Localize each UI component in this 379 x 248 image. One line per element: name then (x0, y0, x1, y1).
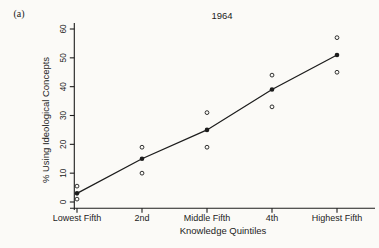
y-tick-label: 30 (59, 111, 68, 121)
y-tick-label: 20 (59, 139, 68, 149)
x-tick-label: Highest Fifth (312, 213, 363, 223)
figure-panel: (a) 1964 Knowledge Quintiles % Using Ide… (0, 0, 379, 248)
data-point-open (270, 105, 274, 109)
trend-line (77, 55, 337, 193)
data-point-open (140, 171, 144, 175)
panel-label: (a) (13, 8, 24, 20)
data-point-filled (140, 156, 145, 161)
x-axis-title: Knowledge Quintiles (180, 225, 267, 236)
y-tick-label: 0 (59, 199, 68, 204)
y-tick-label: 50 (59, 53, 68, 63)
x-tick-label: 2nd (134, 213, 149, 223)
data-point-open (270, 73, 274, 77)
chart-title: 1964 (211, 10, 232, 21)
x-tick-label: Middle Fifth (184, 213, 231, 223)
chart-canvas: (a) 1964 Knowledge Quintiles % Using Ide… (0, 0, 379, 248)
data-point-open (205, 111, 209, 115)
y-tick-label: 10 (59, 168, 68, 178)
y-axis-title: % Using Ideological Concepts (40, 57, 51, 183)
x-tick-label: 4th (266, 213, 279, 223)
data-point-open (335, 36, 339, 40)
data-point-filled (335, 53, 340, 58)
axes: 0102030405060Lowest Fifth2ndMiddle Fifth… (53, 23, 375, 223)
y-tick-label: 60 (59, 24, 68, 34)
data-point-filled (75, 191, 80, 196)
data-series (75, 36, 340, 201)
data-point-filled (205, 128, 210, 133)
data-point-filled (270, 87, 275, 92)
data-point-open (205, 145, 209, 149)
data-point-open (75, 197, 79, 201)
data-point-open (75, 184, 79, 188)
data-point-open (335, 70, 339, 74)
y-tick-label: 40 (59, 82, 68, 92)
x-tick-label: Lowest Fifth (53, 213, 102, 223)
data-point-open (140, 145, 144, 149)
